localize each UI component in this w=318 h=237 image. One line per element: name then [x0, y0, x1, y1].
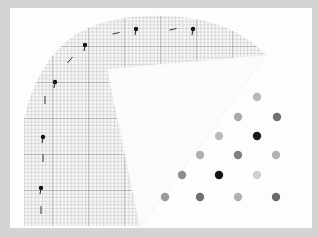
lattice-dot: [178, 171, 186, 179]
lattice-dot: [215, 132, 223, 140]
artwork: [0, 0, 318, 237]
lattice-dot: [234, 151, 242, 159]
lattice-dot: [196, 193, 204, 201]
photo-frame: [0, 0, 318, 237]
lattice-dot: [253, 171, 261, 179]
lattice-dot: [234, 113, 242, 121]
lattice-dot: [273, 113, 281, 121]
lattice-dot: [253, 132, 261, 140]
lattice-dot: [253, 93, 261, 101]
lattice-dot: [272, 151, 280, 159]
lattice-dot: [196, 151, 204, 159]
lattice-dot: [215, 171, 223, 179]
lattice-dot: [272, 193, 280, 201]
lattice-dot: [161, 193, 169, 201]
lattice-dot: [234, 193, 242, 201]
